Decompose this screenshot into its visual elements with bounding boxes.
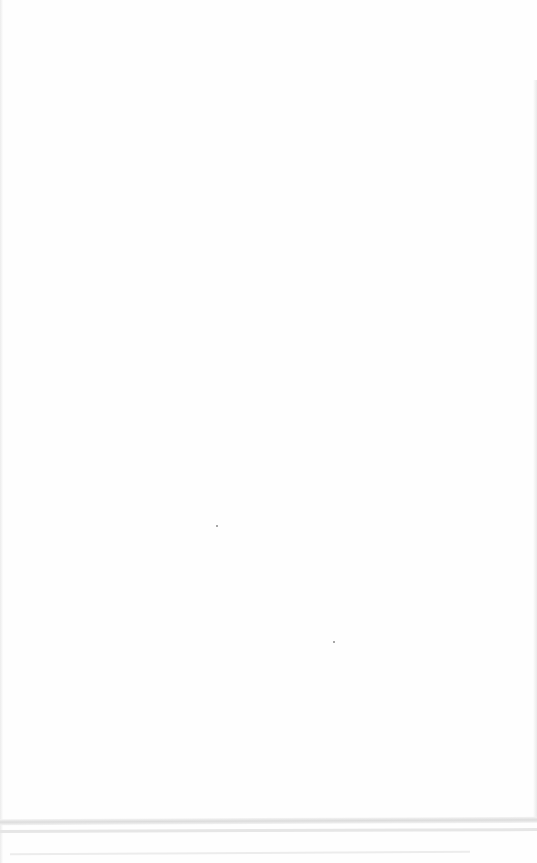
page-left-edge	[0, 0, 3, 863]
page-right-edge	[533, 80, 537, 820]
underlying-sheet-edge	[10, 851, 470, 855]
dust-speck	[216, 525, 218, 527]
blank-page	[0, 0, 537, 863]
dust-speck	[333, 641, 335, 643]
page-bottom-edge	[0, 817, 537, 825]
page-bottom-edge-shadow	[0, 828, 537, 833]
